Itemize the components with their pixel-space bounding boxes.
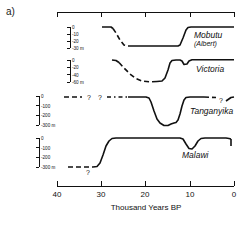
malawi-label: Malawi [182, 150, 210, 160]
victoria-curve-dashed-low [119, 63, 157, 82]
victoria-ytick-label-0: 0 [72, 58, 75, 63]
xtick-label-10: 10 [186, 190, 195, 199]
xtick-label-20: 20 [141, 190, 150, 199]
tanganyika-question-1: ? [87, 94, 91, 101]
tanganyika-label: Tanganyika [190, 106, 233, 116]
malawi-ytick-label-200: -200 [41, 155, 51, 160]
mobutu-y-axis: 0 -10 -20 -30 m [67, 25, 84, 51]
tanganyika-ytick-label-200: -200 [41, 113, 51, 118]
malawi-ytick-label-0: 0 [41, 136, 44, 141]
mobutu-ytick-label-30: -30 m [72, 46, 84, 51]
mobutu-ytick-label-10: -10 [72, 32, 79, 37]
panel-malawi: 0 -100 -200 -300 m ? Malawi [36, 136, 231, 176]
victoria-curve-solid-start [112, 60, 119, 63]
lake-level-chart: 0 -10 -20 -30 m Mobutu (Albert) 0 -20 [0, 0, 252, 228]
mobutu-ytick-label-20: -20 [72, 39, 79, 44]
malawi-y-axis: 0 -100 -200 -300 m [36, 136, 55, 170]
victoria-ytick-label-40: -40 [72, 73, 79, 78]
tanganyika-curve-tip-right [226, 97, 234, 101]
malawi-curve-solid [93, 138, 231, 167]
tanganyika-ytick-label-0: 0 [41, 94, 44, 99]
xtick-label-30: 30 [97, 190, 106, 199]
top-axis [57, 12, 234, 17]
bottom-axis: 40 30 20 10 0 Thousand Years BP [53, 181, 237, 212]
x-axis-title: Thousand Years BP [111, 203, 182, 212]
mobutu-label: Mobutu [194, 30, 223, 40]
xtick-label-40: 40 [53, 190, 62, 199]
victoria-ytick-label-20: -20 [72, 65, 79, 70]
victoria-ytick-label-60: -60 m [72, 80, 84, 85]
victoria-y-axis: 0 -20 -40 -60 m [67, 58, 84, 85]
xtick-label-0: 0 [232, 190, 237, 199]
tanganyika-question-2: ? [98, 94, 102, 101]
mobutu-sublabel: (Albert) [194, 40, 217, 48]
figure-root: a) 0 -10 -20 -30 m [0, 0, 252, 228]
tanganyika-ytick-label-300: -300 m [41, 123, 55, 128]
mobutu-curve-solid-left [102, 27, 113, 29]
malawi-ytick-label-100: -100 [41, 146, 51, 151]
panel-victoria: 0 -20 -40 -60 m Victoria [67, 58, 234, 85]
mobutu-curve-dashed-drop [113, 29, 128, 47]
tanganyika-question-3: ? [219, 97, 223, 104]
panel-mobutu: 0 -10 -20 -30 m Mobutu (Albert) [67, 25, 234, 51]
tanganyika-ytick-label-100: -100 [41, 104, 51, 109]
tanganyika-y-axis: 0 -100 -200 -300 m [36, 94, 55, 128]
victoria-label: Victoria [196, 64, 224, 74]
malawi-ytick-label-300: -300 m [41, 165, 55, 170]
tanganyika-curve-dashed-right [204, 97, 216, 98]
mobutu-ytick-label-0: 0 [72, 25, 75, 30]
malawi-question-1: ? [86, 169, 90, 176]
panel-tanganyika: 0 -100 -200 -300 m ? ? ? Tanganyika [36, 94, 234, 129]
